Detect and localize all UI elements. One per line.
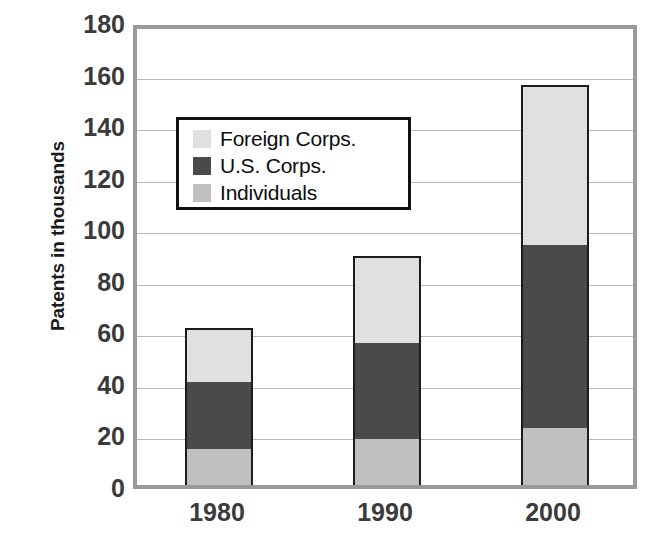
bar-segment[interactable] (185, 449, 253, 485)
legend-swatch-icon (193, 157, 211, 175)
y-tick-label: 100 (63, 218, 125, 243)
y-axis-tick-labels: 180160140120100806040200 (55, 0, 125, 549)
bar-group[interactable] (521, 23, 589, 485)
y-tick-label: 80 (63, 270, 125, 295)
bar-segment[interactable] (521, 428, 589, 485)
bar-segment[interactable] (353, 439, 421, 485)
bar-group[interactable] (185, 23, 253, 485)
y-tick-label: 20 (63, 424, 125, 449)
legend-item-label: U.S. Corps. (220, 154, 326, 178)
x-tick-label: 1990 (335, 500, 435, 525)
x-tick-label: 2000 (503, 500, 603, 525)
legend-item[interactable]: Individuals (193, 180, 408, 206)
legend-item[interactable]: Foreign Corps. (193, 126, 408, 152)
stacked-bar-chart: Patents in thousands 1801601401201008060… (0, 0, 657, 549)
legend-item-label: Individuals (220, 181, 317, 205)
y-tick-label: 40 (63, 373, 125, 398)
legend-item-label: Foreign Corps. (220, 127, 356, 151)
y-tick-label: 160 (63, 64, 125, 89)
y-tick-label: 60 (63, 321, 125, 346)
y-tick-label: 140 (63, 115, 125, 140)
legend-swatch-icon (193, 130, 211, 148)
bar-segment[interactable] (353, 343, 421, 438)
x-tick-label: 1980 (167, 500, 267, 525)
bar-segment[interactable] (521, 85, 589, 245)
y-tick-label: 120 (63, 167, 125, 192)
plot-inner (137, 29, 633, 485)
bar-segment[interactable] (185, 328, 253, 382)
y-tick-label: 180 (63, 12, 125, 37)
bar-segment[interactable] (353, 256, 421, 344)
legend-item[interactable]: U.S. Corps. (193, 153, 408, 179)
bar-segment[interactable] (185, 382, 253, 449)
chart-legend: Foreign Corps.U.S. Corps.Individuals (176, 117, 411, 210)
legend-swatch-icon (193, 184, 211, 202)
y-tick-label: 0 (63, 476, 125, 501)
bar-group[interactable] (353, 23, 421, 485)
plot-area (133, 25, 637, 489)
bar-segment[interactable] (521, 245, 589, 428)
